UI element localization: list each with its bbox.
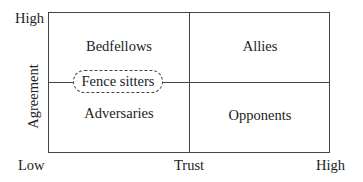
y-axis-high-label: High: [15, 10, 44, 27]
quadrant-allies: Allies: [190, 38, 330, 55]
x-axis-label: Trust: [174, 157, 204, 174]
x-axis-low-label: Low: [18, 157, 45, 174]
x-axis-high-label: High: [316, 157, 345, 174]
quadrant-bedfellows: Bedfellows: [49, 38, 189, 55]
quadrant-opponents: Opponents: [190, 107, 330, 124]
y-axis-label: Agreement: [25, 52, 42, 142]
fence-sitters-pill: Fence sitters: [73, 70, 163, 93]
quadrant-adversaries: Adversaries: [49, 105, 189, 122]
